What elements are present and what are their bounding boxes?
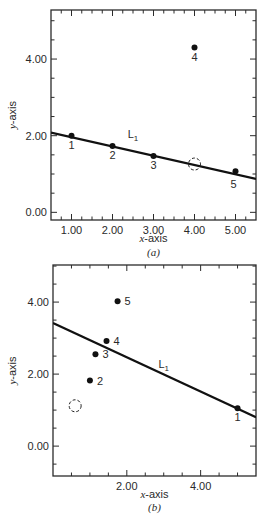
data-point-5	[115, 298, 121, 304]
point-label-4: 4	[114, 335, 120, 347]
data-point-2	[87, 378, 93, 384]
point-label-1: 1	[234, 411, 240, 423]
point-label-3: 3	[102, 348, 108, 360]
x-tick-label: 4.00	[190, 480, 211, 492]
point-label-5: 5	[125, 295, 131, 307]
x-axis-title: x-axis	[138, 232, 168, 244]
axis-ticks	[51, 10, 256, 220]
point-label-2: 2	[109, 149, 115, 161]
x-tick-label: 2.00	[116, 480, 137, 492]
line-label-L1: L1	[128, 128, 139, 143]
point-label-3: 3	[150, 159, 156, 171]
y-tick-label: 4.00	[28, 296, 49, 308]
fitted-line-L1	[53, 323, 256, 417]
y-axis-title: y-axis	[6, 100, 18, 130]
y-tick-label: 0.00	[26, 206, 47, 218]
figure: 1.002.003.004.005.000.002.004.00x-axisy-…	[0, 0, 268, 524]
panel-label: (b)	[148, 501, 161, 514]
chart-panel-a: 1.002.003.004.005.000.002.004.00x-axisy-…	[6, 10, 256, 259]
panel-label: (a)	[147, 246, 160, 259]
data-point-5	[233, 168, 239, 174]
y-tick-label: 0.00	[28, 440, 49, 452]
y-tick-label: 2.00	[26, 130, 47, 142]
point-label-5: 5	[230, 178, 236, 190]
x-tick-label: 1.00	[61, 224, 82, 236]
x-tick-label: 4.00	[184, 224, 205, 236]
plot-frame	[51, 10, 256, 220]
y-tick-label: 2.00	[28, 368, 49, 380]
dashed-circle-marker	[69, 400, 81, 412]
data-point-4	[104, 338, 110, 344]
y-tick-label: 4.00	[26, 53, 47, 65]
cropped-caption-fragment	[0, 514, 268, 524]
point-label-1: 1	[68, 139, 74, 151]
chart-panel-b: 2.004.000.002.004.00x-axisy-axis(b)L1123…	[6, 265, 256, 514]
y-axis-title: y-axis	[6, 356, 18, 386]
data-point-3	[92, 351, 98, 357]
x-tick-label: 5.00	[225, 224, 246, 236]
point-label-4: 4	[191, 51, 197, 63]
line-label-L1: L1	[158, 358, 169, 373]
x-axis-title: x-axis	[139, 488, 169, 500]
x-tick-label: 2.00	[102, 224, 123, 236]
point-label-2: 2	[97, 375, 103, 387]
